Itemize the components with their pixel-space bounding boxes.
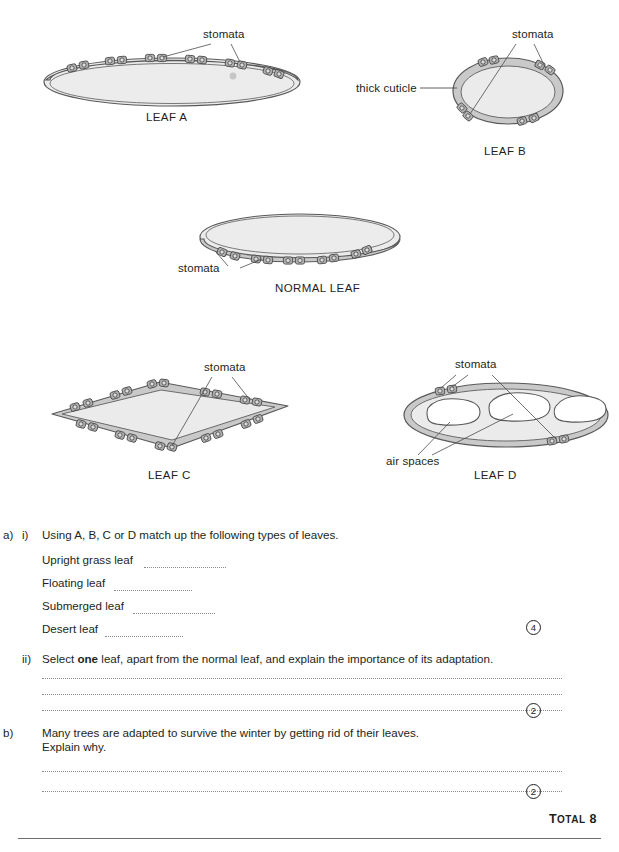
marks-badge-b: 2 — [526, 784, 541, 799]
question-a-ii-numeral: ii) — [22, 652, 31, 665]
match-item-blank-2[interactable] — [133, 612, 215, 614]
total-word-initial: T — [549, 812, 557, 826]
match-item-blank-3[interactable] — [105, 635, 183, 637]
question-a-ii-text-before: Select — [42, 652, 77, 665]
answer-line-b-2[interactable] — [42, 790, 562, 792]
match-item-label-2: Submerged leaf — [42, 599, 124, 613]
leaf-d-caption: LEAF D — [474, 469, 517, 481]
match-item-blank-1[interactable] — [114, 589, 192, 591]
normal-leaf-shape — [200, 214, 400, 262]
question-a-ii-text-bold: one — [77, 652, 98, 665]
marks-badge-a-i: 4 — [526, 620, 541, 635]
question-a-ii-text-after: leaf, apart from the normal leaf, and ex… — [98, 652, 493, 665]
leaf-c-stomata-label: stomata — [204, 361, 246, 373]
match-item-label-1: Floating leaf — [42, 576, 105, 590]
question-b-line2: Explain why. — [42, 740, 106, 754]
total-word-rest: OTAL — [557, 814, 585, 825]
air-spaces-label: air spaces — [386, 455, 439, 467]
match-item-label-0: Upright grass leaf — [42, 553, 133, 567]
leaf-diagrams-svg — [0, 0, 619, 505]
leaf-c-caption: LEAF C — [148, 469, 191, 481]
answer-line-a-ii-3[interactable] — [42, 709, 562, 711]
question-b-letter: b) — [3, 726, 13, 739]
leaf-b-caption: LEAF B — [484, 145, 526, 157]
match-item-blank-0[interactable] — [144, 566, 226, 568]
match-item-label-3: Desert leaf — [42, 622, 98, 636]
leaf-diagrams-figure: stomata LEAF A stomata thick cuticle LEA… — [0, 0, 619, 505]
normal-leaf-caption: NORMAL LEAF — [275, 282, 360, 294]
normal-leaf-stomata-label: stomata — [178, 262, 220, 274]
worksheet-page: stomata LEAF A stomata thick cuticle LEA… — [0, 0, 619, 852]
total-label: TOTAL 8 — [549, 812, 597, 826]
question-a-i-text: Using A, B, C or D match up the followin… — [42, 528, 338, 542]
leaf-a-caption: LEAF A — [146, 111, 187, 123]
question-a-i-numeral: i) — [22, 528, 28, 541]
total-value: 8 — [590, 812, 597, 826]
leaf-c-shape — [52, 382, 288, 448]
thick-cuticle-label: thick cuticle — [356, 82, 417, 94]
answer-line-b-1[interactable] — [42, 770, 562, 772]
answer-line-a-ii-2[interactable] — [42, 693, 562, 695]
answer-line-a-ii-1[interactable] — [42, 677, 562, 679]
footer-rule — [18, 838, 601, 839]
leaf-b-stomata-label: stomata — [512, 28, 554, 40]
marks-badge-a-ii: 2 — [526, 703, 541, 718]
question-a-ii-text: Select one leaf, apart from the normal l… — [42, 652, 493, 666]
question-b-line1: Many trees are adapted to survive the wi… — [42, 726, 419, 740]
question-a-letter: a) — [3, 528, 13, 541]
leaf-d-stomata-label: stomata — [455, 358, 497, 370]
leaf-a-stomata-label: stomata — [203, 28, 245, 40]
